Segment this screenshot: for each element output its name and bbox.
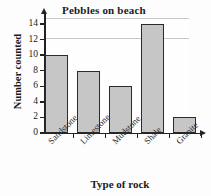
bar-chart: Pebbles on beach Number counted Type of …	[0, 0, 211, 196]
x-tick-mark	[105, 133, 106, 138]
y-tick-label: 10	[12, 49, 38, 59]
x-tick-mark	[73, 133, 74, 138]
y-axis-arrow-icon	[41, 8, 47, 14]
y-tick-label: 0	[12, 127, 38, 137]
y-tick-label: 2	[12, 111, 38, 121]
x-tick-mark	[201, 133, 202, 138]
y-tick-label: 12	[12, 34, 38, 44]
y-tick-mark	[40, 39, 45, 40]
y-tick-label: 14	[12, 18, 38, 28]
x-axis-title: Type of rock	[40, 178, 200, 190]
y-tick-label: 8	[12, 65, 38, 75]
y-tick-label: 6	[12, 80, 38, 90]
y-tick-label: 4	[12, 96, 38, 106]
chart-title: Pebbles on beach	[62, 4, 202, 16]
y-tick-mark	[40, 23, 45, 24]
bar-shale	[141, 24, 164, 133]
x-tick-mark	[169, 133, 170, 138]
x-tick-mark	[137, 133, 138, 138]
